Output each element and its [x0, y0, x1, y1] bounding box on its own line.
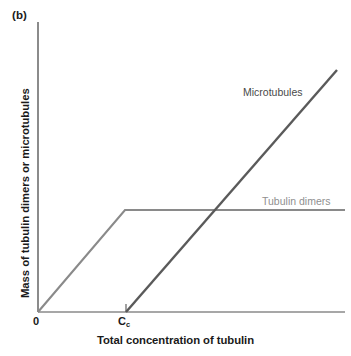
chart-plot-area — [0, 0, 351, 356]
panel-label: (b) — [12, 10, 27, 22]
series-line-tubulin-dimers — [38, 210, 345, 312]
series-line-microtubules — [126, 70, 337, 312]
tick-cc-base: C — [118, 315, 126, 327]
figure-panel-b: (b) Mass of tubulin dimers or microtubul… — [0, 0, 351, 356]
tick-cc-subscript: c — [126, 320, 130, 329]
x-tick-label-zero: 0 — [33, 316, 39, 327]
x-axis-title: Total concentration of tubulin — [0, 335, 351, 346]
series-label-tubulin-dimers: Tubulin dimers — [262, 196, 330, 207]
y-axis-title: Mass of tubulin dimers or microtubules — [20, 88, 31, 298]
x-tick-label-critical-concentration: Cc — [118, 316, 130, 327]
series-label-microtubules: Microtubules — [243, 87, 303, 98]
